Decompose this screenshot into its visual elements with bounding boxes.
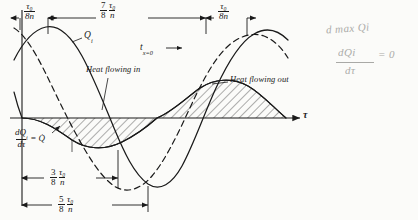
dim5-prefix-denominator: 8 (58, 204, 65, 214)
dim1-numerator: τ₀ (25, 2, 33, 11)
dimension-label-bottom-1: 3 8 τ₀ n (50, 168, 66, 187)
dim2-prefix-denominator: 8 (100, 10, 107, 20)
figure-page: τ₀ 8n 7 8 τ₀ n τ₀ 8n 3 8 τ₀ n (0, 0, 418, 220)
rate-equals: = Q̇ (30, 134, 45, 143)
dim3-denominator: 8n (218, 11, 229, 21)
dim2-prefix-numerator: 7 (100, 1, 107, 10)
dim4-prefix-numerator: 3 (50, 168, 57, 177)
dim3-numerator: τ₀ (219, 2, 227, 11)
dim4-prefix-denominator: 8 (50, 177, 57, 187)
curve-label-t-surface: tx=0 (140, 43, 153, 54)
annotation-heat-flowing-in: Heat flowing in (86, 64, 140, 74)
dim5-numerator: τ₀ (66, 195, 74, 204)
dimension-label-top-2: 7 8 τ₀ n (100, 1, 116, 20)
dim5-denominator: n (67, 204, 74, 214)
rate-numerator: dQ (15, 127, 26, 137)
region-heat-flowing-out (157, 80, 286, 118)
qi-subscript: i (91, 37, 93, 44)
dimension-label-bottom-2: 5 8 τ₀ n (58, 195, 74, 214)
rate-numerator-subscript: i (26, 135, 28, 141)
dim4-denominator: n (59, 177, 66, 187)
dim2-denominator: n (109, 10, 116, 20)
pencil-note-fraction-numerator: dQi (338, 46, 356, 58)
dimension-label-top-3: τ₀ 8n (218, 2, 229, 21)
leader-qi (72, 38, 82, 42)
curve-label-rate: dQi dτ = Q̇ (14, 128, 45, 149)
dimension-label-top-1: τ₀ 8n (24, 2, 35, 21)
rate-denominator: dτ (16, 139, 26, 149)
pencil-note-fraction-bar (336, 62, 374, 63)
dimension-line-bottom-1 (22, 150, 118, 188)
qi-symbol: Q (84, 30, 91, 40)
dimension-line-top-3 (206, 18, 256, 36)
dim4-numerator: τ₀ (58, 168, 66, 177)
axis-label-tau: τ (303, 110, 307, 120)
dim2-numerator: τ₀ (108, 1, 116, 10)
dim1-denominator: 8n (24, 11, 35, 21)
pencil-note-rhs: = 0 (378, 48, 395, 60)
t-subscript: x=0 (143, 49, 153, 56)
annotation-heat-flowing-out: Heat flowing out (230, 74, 289, 84)
pencil-note-fraction-denominator: dτ (345, 64, 355, 76)
curve-label-qi: Qi (84, 31, 93, 42)
dimension-line-top-2 (48, 18, 206, 34)
dim5-prefix-numerator: 5 (58, 195, 65, 204)
